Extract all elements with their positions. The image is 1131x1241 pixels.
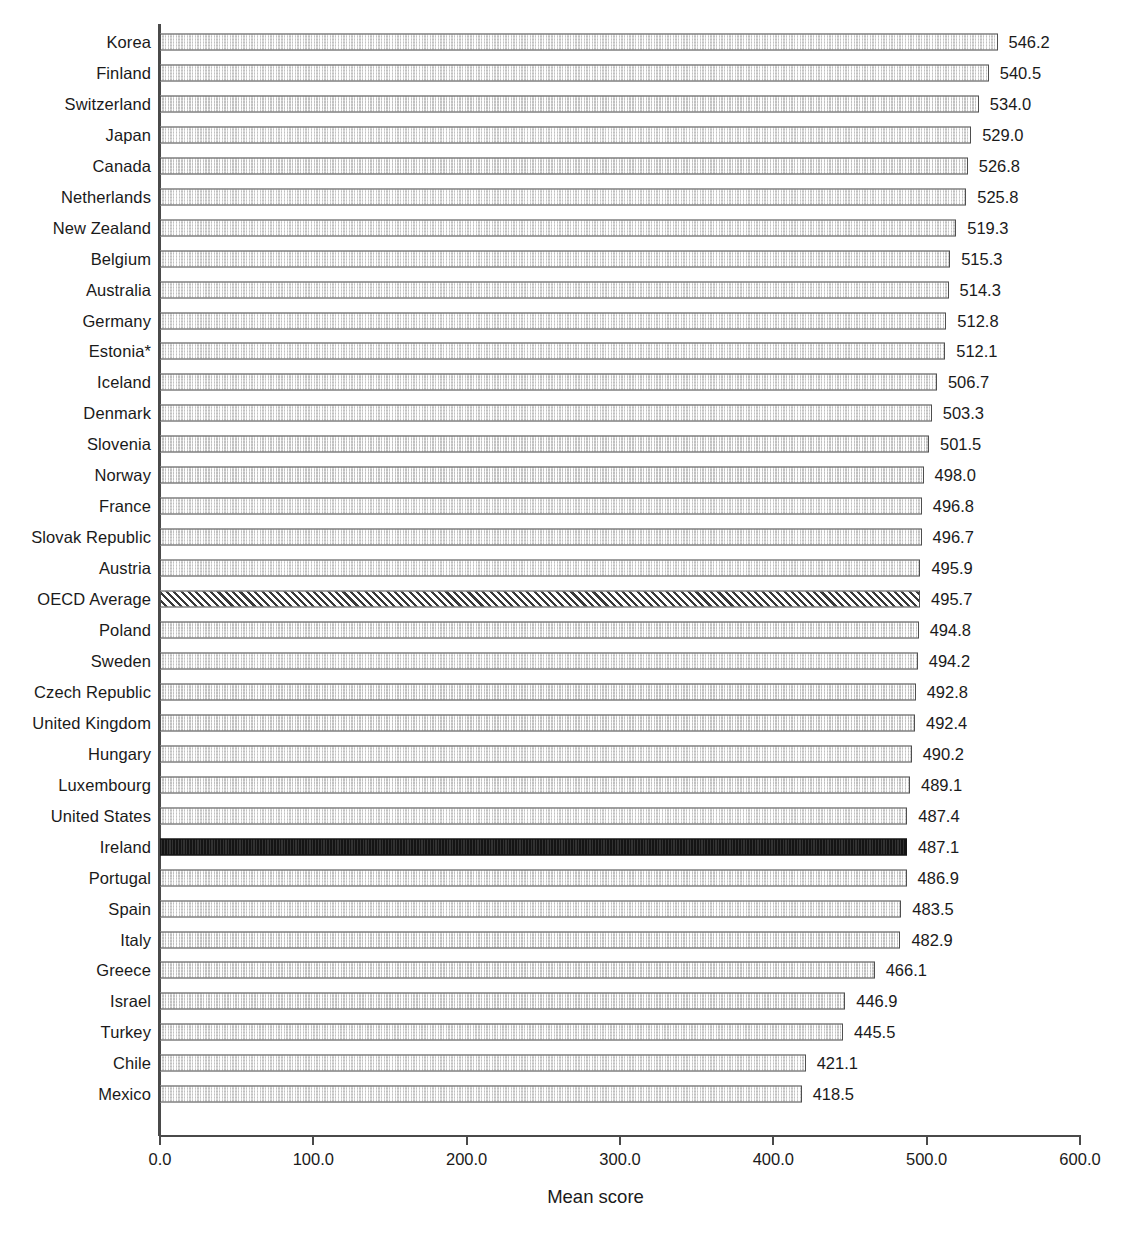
bar-value-label: 483.5: [901, 899, 953, 918]
bar-row: Greece466.1: [0, 955, 1131, 986]
bar-track: [160, 962, 875, 979]
bar[interactable]: [160, 931, 900, 948]
bar[interactable]: [160, 591, 920, 608]
bar-value-label: 487.1: [907, 837, 959, 856]
bar-row: Norway498.0: [0, 460, 1131, 491]
bar-track: [160, 993, 845, 1010]
bar[interactable]: [160, 714, 915, 731]
x-axis-tick: [312, 1136, 314, 1145]
bar[interactable]: [160, 807, 907, 824]
bar-row: Germany512.8: [0, 305, 1131, 336]
bar[interactable]: [160, 529, 922, 546]
bar-track: [160, 560, 920, 577]
bar-track: [160, 405, 932, 422]
bar[interactable]: [160, 498, 922, 515]
bar-row: Netherlands525.8: [0, 181, 1131, 212]
x-axis-tick: [619, 1136, 621, 1145]
category-label: Greece: [96, 961, 151, 980]
bar-row: Slovak Republic496.7: [0, 522, 1131, 553]
bar-value-label: 512.8: [946, 311, 998, 330]
bar-value-label: 489.1: [910, 775, 962, 794]
bar-track: [160, 498, 922, 515]
bar-row: United States487.4: [0, 800, 1131, 831]
bar-value-label: 546.2: [998, 32, 1050, 51]
category-label: Iceland: [97, 373, 151, 392]
bar[interactable]: [160, 560, 920, 577]
bar[interactable]: [160, 838, 907, 855]
bar-value-label: 421.1: [806, 1054, 858, 1073]
x-axis-tick: [926, 1136, 928, 1145]
category-label: Japan: [106, 125, 151, 144]
bar-row: Belgium515.3: [0, 243, 1131, 274]
bar[interactable]: [160, 312, 946, 329]
bar-track: [160, 652, 918, 669]
category-label: Austria: [99, 559, 151, 578]
bar-track: [160, 683, 916, 700]
category-label: Poland: [99, 621, 151, 640]
bar[interactable]: [160, 869, 907, 886]
bar[interactable]: [160, 622, 919, 639]
bar-value-label: 525.8: [966, 187, 1018, 206]
x-axis-tick-label: 400.0: [753, 1150, 794, 1169]
bar[interactable]: [160, 776, 910, 793]
bar-track: [160, 622, 919, 639]
bar-track: [160, 436, 929, 453]
bar-track: [160, 64, 989, 81]
bar-value-label: 540.5: [989, 63, 1041, 82]
bar-track: [160, 838, 907, 855]
bar[interactable]: [160, 683, 916, 700]
bar[interactable]: [160, 962, 875, 979]
bar[interactable]: [160, 652, 918, 669]
bar[interactable]: [160, 436, 929, 453]
bar-value-label: 492.8: [916, 682, 968, 701]
bar-track: [160, 529, 922, 546]
bar[interactable]: [160, 64, 989, 81]
bar[interactable]: [160, 467, 924, 484]
bar-value-label: 487.4: [907, 806, 959, 825]
bar[interactable]: [160, 900, 901, 917]
bar[interactable]: [160, 745, 912, 762]
bar[interactable]: [160, 33, 998, 50]
bar[interactable]: [160, 1024, 843, 1041]
category-label: Ireland: [100, 837, 151, 856]
category-label: Israel: [110, 992, 151, 1011]
bar[interactable]: [160, 157, 968, 174]
bar-row: OECD Average495.7: [0, 584, 1131, 615]
category-label: Turkey: [101, 1023, 151, 1042]
bar[interactable]: [160, 219, 956, 236]
bar-value-label: 445.5: [843, 1023, 895, 1042]
bar-track: [160, 807, 907, 824]
bar-value-label: 534.0: [979, 94, 1031, 113]
x-axis-title: Mean score: [0, 1186, 1131, 1208]
bar-row: Sweden494.2: [0, 646, 1131, 677]
bar[interactable]: [160, 95, 979, 112]
bar[interactable]: [160, 405, 932, 422]
bar-value-label: 526.8: [968, 156, 1020, 175]
category-label: Australia: [86, 280, 151, 299]
bar-row: Estonia*512.1: [0, 336, 1131, 367]
bar[interactable]: [160, 188, 966, 205]
bar[interactable]: [160, 126, 971, 143]
bar-row: Korea546.2: [0, 27, 1131, 58]
bar[interactable]: [160, 281, 949, 298]
bar[interactable]: [160, 374, 937, 391]
bar-row: Japan529.0: [0, 119, 1131, 150]
bar-value-label: 466.1: [875, 961, 927, 980]
bar-value-label: 490.2: [912, 744, 964, 763]
category-label: Norway: [94, 466, 151, 485]
bar-track: [160, 714, 915, 731]
bar-row: Turkey445.5: [0, 1017, 1131, 1048]
bar-track: [160, 467, 924, 484]
bar-row: France496.8: [0, 491, 1131, 522]
bar[interactable]: [160, 250, 950, 267]
bar-track: [160, 776, 910, 793]
bar[interactable]: [160, 1055, 806, 1072]
bar-track: [160, 591, 920, 608]
bar-track: [160, 219, 956, 236]
bar[interactable]: [160, 343, 945, 360]
bar-value-label: 498.0: [924, 466, 976, 485]
bar[interactable]: [160, 1086, 802, 1103]
bar[interactable]: [160, 993, 845, 1010]
bar-value-label: 495.7: [920, 590, 972, 609]
category-label: Slovak Republic: [31, 528, 151, 547]
